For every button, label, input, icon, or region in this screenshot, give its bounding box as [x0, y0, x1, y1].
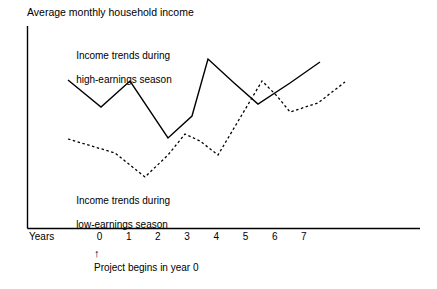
x-tick-label-7: 7	[297, 231, 311, 242]
series-label-high-earnings: Income trends during high-earnings seaso…	[65, 38, 172, 98]
x-tick-label-0: 0	[93, 231, 107, 242]
x-axis-label: Years	[29, 231, 54, 243]
up-arrow-icon: ↑	[94, 247, 100, 259]
series-label-high-line2: high-earnings season	[76, 74, 172, 85]
series-label-high-line1: Income trends during	[76, 50, 170, 61]
series-label-low-line1: Income trends during	[76, 195, 170, 206]
x-tick-label-2: 2	[151, 231, 165, 242]
x-tick-label-3: 3	[180, 231, 194, 242]
chart-figure: Average monthly household income Income …	[0, 0, 437, 289]
x-tick-label-5: 5	[239, 231, 253, 242]
x-tick-label-6: 6	[268, 231, 282, 242]
series-label-low-line2: low-earnings season	[76, 219, 168, 230]
x-tick-label-4: 4	[209, 231, 223, 242]
annotation-project-begins: Project begins in year 0	[94, 262, 199, 274]
x-tick-label-1: 1	[122, 231, 136, 242]
